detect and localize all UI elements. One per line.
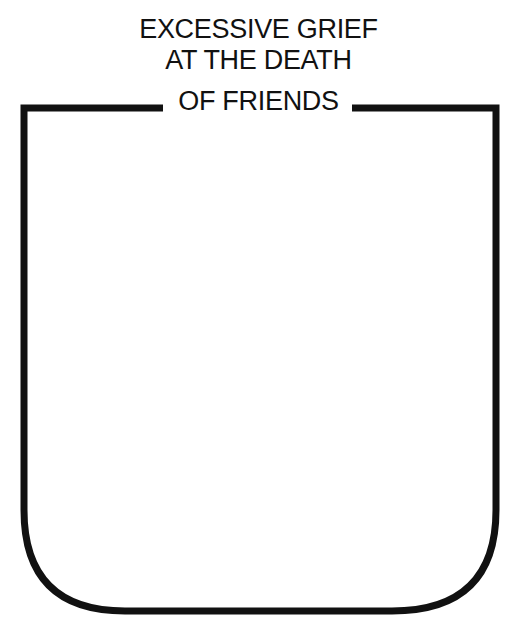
title-line-3: OF FRIENDS [0, 86, 517, 116]
title-line-2: AT THE DEATH [0, 45, 517, 75]
title-line-3-text: OF FRIENDS [174, 86, 343, 116]
title-line-1: EXCESSIVE GRIEF [0, 14, 517, 44]
